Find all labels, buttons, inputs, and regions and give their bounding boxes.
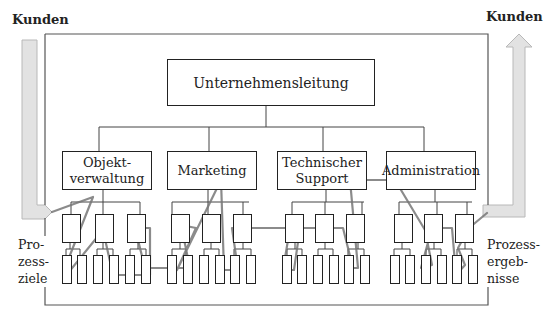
unit-box xyxy=(202,214,221,243)
department-label: Support xyxy=(295,171,348,186)
subunit-box xyxy=(230,255,240,284)
subunit-box xyxy=(167,255,177,284)
management-label: Unternehmensleitung xyxy=(193,75,348,91)
department-label: Administration xyxy=(382,163,480,179)
process-goals-label: Pro- zess- ziele xyxy=(18,236,49,287)
subunit-box xyxy=(77,255,87,284)
unit-box xyxy=(285,214,304,243)
subunit-box xyxy=(141,255,151,284)
department-label: verwaltung xyxy=(70,171,145,186)
output-arrow-icon xyxy=(483,34,532,217)
unit-box xyxy=(394,214,413,243)
department-box-marketing: Marketing xyxy=(167,151,257,190)
subunit-box xyxy=(215,255,225,284)
subunit-box xyxy=(437,255,447,284)
subunit-box xyxy=(329,255,339,284)
subunit-box xyxy=(125,255,135,284)
unit-box xyxy=(171,214,190,243)
subunit-box xyxy=(62,255,72,284)
process-results-label: Prozess- ergeb- nisse xyxy=(485,236,540,287)
subunit-box xyxy=(109,255,119,284)
subunit-box xyxy=(183,255,193,284)
subunit-box xyxy=(344,255,354,284)
unit-box xyxy=(233,214,252,243)
input-arrow-icon xyxy=(22,40,52,219)
department-label: Objekt- xyxy=(83,155,131,170)
unit-box xyxy=(315,214,334,243)
unit-box xyxy=(95,214,114,243)
department-box-administration: Administration xyxy=(386,151,476,190)
unit-box xyxy=(424,214,443,243)
management-box: Unternehmensleitung xyxy=(167,59,375,106)
subunit-box xyxy=(313,255,323,284)
subunit-box xyxy=(390,255,400,284)
subunit-box xyxy=(452,255,462,284)
subunit-box xyxy=(468,255,478,284)
subunit-box xyxy=(421,255,431,284)
subunit-box xyxy=(282,255,292,284)
subunit-box xyxy=(405,255,415,284)
subunit-box xyxy=(297,255,307,284)
department-box-technischer-support: TechnischerSupport xyxy=(277,151,367,190)
subunit-box xyxy=(246,255,256,284)
department-label: Marketing xyxy=(178,163,247,179)
unit-box xyxy=(127,214,146,243)
unit-box xyxy=(62,214,81,243)
subunit-box xyxy=(199,255,209,284)
department-label: Technischer xyxy=(282,155,362,170)
subunit-box xyxy=(93,255,103,284)
unit-box xyxy=(346,214,365,243)
subunit-box xyxy=(360,255,370,284)
unit-box xyxy=(455,214,474,243)
department-box-objektverwaltung: Objekt-verwaltung xyxy=(62,151,152,190)
